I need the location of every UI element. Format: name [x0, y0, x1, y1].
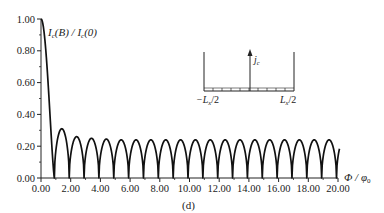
x-tick-label: 2.00 — [62, 183, 80, 194]
y-tick-label: 0.40 — [17, 109, 35, 120]
axes: 0.000.200.400.600.801.000.002.004.006.00… — [17, 14, 350, 195]
x-tick-label: 6.00 — [121, 183, 139, 194]
x-tick-label: 16.00 — [267, 183, 291, 194]
x-tick-label: 4.00 — [91, 183, 109, 194]
panel-label: (d) — [182, 199, 195, 212]
y-tick-label: 0.60 — [17, 77, 35, 88]
inset-right-label: Lx/2 — [279, 94, 296, 106]
x-tick-label: 20.00 — [326, 183, 350, 194]
x-tick-label: 12.00 — [207, 183, 231, 194]
inset-current-density — [204, 52, 294, 91]
y-tick-label: 0.20 — [17, 141, 35, 152]
x-tick-label: 10.00 — [178, 183, 202, 194]
inset-arrow-icon — [248, 49, 253, 56]
x-tick-label: 0.00 — [32, 183, 50, 194]
y-tick-label: 0.80 — [17, 45, 35, 56]
chart: 0.000.200.400.600.801.000.002.004.006.00… — [0, 0, 384, 213]
inset-y-label: jc — [252, 54, 260, 66]
x-axis-label: Φ / φ0 — [344, 171, 371, 185]
y-axis-label: Ic(B) / Ic(0) — [47, 26, 97, 40]
y-tick-label: 1.00 — [17, 14, 35, 25]
x-tick-label: 8.00 — [151, 183, 169, 194]
x-tick-label: 18.00 — [296, 183, 320, 194]
x-tick-label: 14.00 — [237, 183, 261, 194]
inset-left-label: −Lx/2 — [196, 94, 219, 106]
y-tick-label: 0.00 — [17, 173, 35, 184]
